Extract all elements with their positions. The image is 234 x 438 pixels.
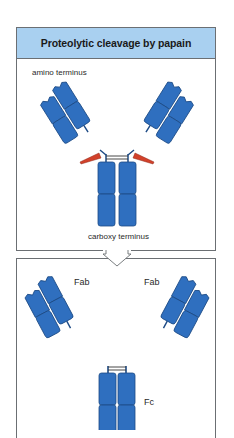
amino-terminus-label: amino terminus	[32, 68, 87, 77]
fab-left-label: Fab	[74, 277, 90, 287]
hinge-region	[100, 150, 134, 162]
down-arrow-icon	[103, 248, 131, 266]
fc-stem-top	[98, 162, 136, 226]
fab-fragment-left	[21, 275, 77, 340]
right-fab-arm-top	[139, 80, 198, 146]
fab-fragment-right	[156, 275, 212, 340]
fab-right-label: Fab	[144, 277, 160, 287]
carboxy-terminus-label: carboxy terminus	[88, 232, 149, 241]
papain-cleavage-left	[80, 153, 101, 164]
fc-fragment	[99, 366, 135, 430]
fc-label: Fc	[144, 397, 154, 407]
papain-cleavage-right	[133, 153, 154, 164]
left-fab-arm-top	[36, 80, 95, 146]
